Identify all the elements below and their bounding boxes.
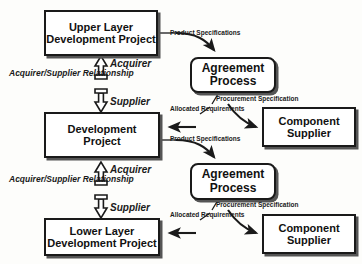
- node-lower-layer-development-project[interactable]: Lower Layer Development Project: [44, 218, 160, 256]
- node-upper-layer-development-project[interactable]: Upper Layer Development Project: [44, 10, 158, 56]
- node-label: Component Supplier: [278, 222, 339, 247]
- node-development-project[interactable]: Development Project: [44, 112, 160, 158]
- edge-label-supplier-upper: Supplier: [110, 96, 150, 107]
- edge-label-product-specifications-lower: Product Specifications: [170, 135, 240, 142]
- node-label: Development Project: [67, 123, 136, 148]
- edge-label-product-specifications-upper: Product Specifications: [170, 29, 240, 36]
- edge-label-acquirer-supplier-relationship-upper: Acquirer/Supplier Relationship: [9, 68, 91, 78]
- node-label-line2: Supplier: [278, 127, 339, 139]
- edge-label-allocated-requirements-lower: Allocated Requirements: [170, 211, 244, 218]
- node-label-line2: Process: [202, 75, 265, 88]
- node-label-line1: Agreement: [202, 62, 265, 75]
- node-label-line1: Component: [278, 222, 339, 234]
- edge-label-procurement-specification-lower: Procurement Specification: [216, 201, 298, 208]
- acquirer-supplier-arrow-upper: [95, 56, 107, 112]
- node-label: Agreement Process: [202, 62, 265, 89]
- node-label-line2: Process: [202, 182, 265, 195]
- node-label: Component Supplier: [278, 115, 339, 140]
- node-label-line1: Component: [278, 115, 339, 127]
- node-label: Agreement Process: [202, 168, 265, 195]
- edge-label-acquirer-supplier-relationship-lower: Acquirer/Supplier Relationship: [9, 174, 91, 184]
- connector-development-to-agreement-lower: [160, 140, 214, 157]
- node-component-supplier-upper[interactable]: Component Supplier: [262, 107, 356, 147]
- node-label-line1: Upper Layer: [46, 21, 155, 33]
- node-label-line1: Agreement: [202, 168, 265, 181]
- node-agreement-process-upper[interactable]: Agreement Process: [190, 57, 276, 93]
- edge-label-supplier-lower: Supplier: [110, 202, 150, 213]
- node-label-line2: Project: [67, 135, 136, 147]
- node-label-line2: Development Project: [47, 237, 156, 249]
- edge-label-procurement-specification-upper: Procurement Specification: [216, 95, 298, 102]
- node-label: Lower Layer Development Project: [47, 225, 156, 250]
- node-label-line1: Lower Layer: [47, 225, 156, 237]
- node-label: Upper Layer Development Project: [46, 21, 155, 46]
- node-label-line2: Supplier: [278, 234, 339, 246]
- node-agreement-process-lower[interactable]: Agreement Process: [190, 163, 276, 200]
- node-label-line2: Development Project: [46, 33, 155, 45]
- node-component-supplier-lower[interactable]: Component Supplier: [262, 214, 356, 254]
- node-label-line1: Development: [67, 123, 136, 135]
- acquirer-supplier-arrow-lower: [95, 162, 107, 218]
- edge-label-allocated-requirements-upper: Allocated Requirements: [170, 105, 244, 112]
- diagram-canvas: Upper Layer Development Project Developm…: [0, 0, 362, 264]
